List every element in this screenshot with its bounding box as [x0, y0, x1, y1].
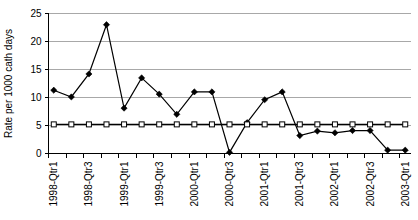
- data-point-marker: [314, 128, 320, 134]
- data-point-marker: [315, 122, 320, 127]
- data-point-marker: [86, 122, 91, 127]
- y-axis-tick-label: 15: [30, 64, 42, 75]
- x-axis-tick-label: 2002-Qtr3: [365, 161, 376, 206]
- y-axis-tick-label: 5: [36, 120, 42, 131]
- data-point-marker: [279, 89, 285, 95]
- x-axis-tick-label: 1999-Qtr1: [119, 161, 130, 206]
- data-point-marker: [122, 122, 127, 127]
- x-axis-tick-label: 2001-Qtr1: [259, 161, 270, 206]
- data-point-marker: [157, 122, 162, 127]
- x-axis-tick-label: 2001-Qtr3: [294, 161, 305, 206]
- data-point-marker: [69, 122, 74, 127]
- data-point-marker: [226, 149, 232, 155]
- data-point-marker: [245, 122, 250, 127]
- data-point-marker: [209, 89, 215, 95]
- y-axis-ticks-group: 0510152025: [30, 8, 48, 159]
- data-point-marker: [403, 122, 408, 127]
- data-point-marker: [262, 122, 267, 127]
- gridlines-group: [49, 14, 411, 126]
- y-axis-tick-label: 25: [30, 8, 42, 19]
- data-point-marker: [297, 122, 302, 127]
- x-axis-ticks-group: [49, 154, 400, 158]
- data-point-marker: [350, 122, 355, 127]
- y-axis-tick-label: 10: [30, 92, 42, 103]
- x-axis-tick-label: 1998-Qtr1: [48, 161, 59, 206]
- x-axis-labels-group: 1998-Qtr11998-Qtr31999-Qtr11999-Qtr32000…: [48, 161, 410, 206]
- y-axis-tick-label: 0: [36, 148, 42, 159]
- data-point-marker: [174, 122, 179, 127]
- data-point-marker: [297, 132, 303, 138]
- data-point-marker: [121, 105, 127, 111]
- data-point-marker: [332, 130, 338, 136]
- data-point-marker: [349, 127, 355, 133]
- x-axis-tick-label: 2003-Qtr1: [400, 161, 411, 206]
- x-axis-tick-label: 1999-Qtr3: [154, 161, 165, 206]
- x-axis-tick-label: 2000-Qtr3: [224, 161, 235, 206]
- data-point-marker: [227, 122, 232, 127]
- data-point-marker: [332, 122, 337, 127]
- data-point-marker: [51, 87, 57, 93]
- data-point-marker: [51, 122, 56, 127]
- data-point-marker: [104, 122, 109, 127]
- data-point-marker: [209, 122, 214, 127]
- x-axis-tick-label: 1998-Qtr3: [83, 161, 94, 206]
- x-axis-tick-label: 2002-Qtr1: [329, 161, 340, 206]
- data-point-marker: [192, 122, 197, 127]
- data-point-marker: [402, 147, 408, 153]
- chart-container: 0510152025 1998-Qtr11998-Qtr31999-Qtr119…: [0, 0, 418, 220]
- y-axis-title: Rate per 1000 cath days: [3, 29, 14, 138]
- data-point-marker: [103, 22, 109, 28]
- y-axis-title-group: Rate per 1000 cath days: [3, 29, 14, 138]
- data-point-marker: [280, 122, 285, 127]
- line-chart: 0510152025 1998-Qtr11998-Qtr31999-Qtr119…: [0, 0, 418, 220]
- data-point-marker: [139, 122, 144, 127]
- data-point-marker: [368, 122, 373, 127]
- x-axis-tick-label: 2000-Qtr1: [189, 161, 200, 206]
- y-axis-tick-label: 20: [30, 36, 42, 47]
- data-point-marker: [385, 122, 390, 127]
